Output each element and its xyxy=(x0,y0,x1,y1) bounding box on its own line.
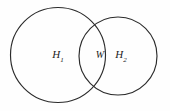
left-set-label: H1 xyxy=(52,45,64,64)
intersection-region-label: W xyxy=(96,45,105,64)
right-set-label: H2 xyxy=(115,45,127,64)
left-set-label-base: H xyxy=(52,48,60,60)
intersection-region-label-base: W xyxy=(96,49,104,60)
right-set-label-base: H xyxy=(115,48,123,60)
right-set-label-subscript: 2 xyxy=(123,57,127,65)
venn-diagram-canvas xyxy=(0,0,170,111)
venn-diagram-figure: H1 W H2 xyxy=(0,0,170,111)
left-set-label-subscript: 1 xyxy=(60,57,64,65)
